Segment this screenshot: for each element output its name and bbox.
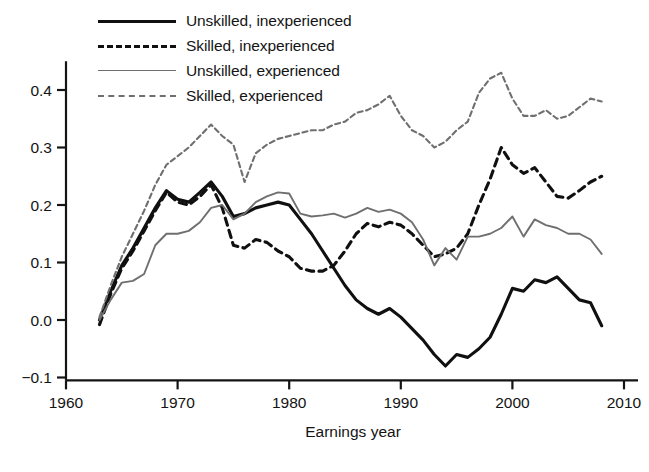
data-series: [99, 73, 601, 366]
series-line-skilled-inexperienced: [99, 148, 601, 325]
x-tick-label: 1960: [49, 394, 84, 411]
y-tick-label: 0.4: [30, 82, 52, 99]
earnings-year-chart: Unskilled, inexperienced Skilled, inexpe…: [0, 0, 649, 472]
series-line-unskilled-experienced: [99, 192, 601, 320]
axis-labels: −0.10.00.10.20.30.4196019701980199020002…: [21, 82, 641, 441]
x-tick-label: 1980: [272, 394, 307, 411]
x-tick-label: 2000: [495, 394, 530, 411]
y-tick-label: −0.1: [21, 369, 52, 386]
x-tick-label: 1990: [384, 394, 419, 411]
y-tick-label: 0.3: [30, 139, 52, 156]
y-tick-label: 0.2: [30, 197, 52, 214]
x-axis-title: Earnings year: [305, 423, 401, 440]
series-line-skilled-experienced: [99, 73, 601, 317]
series-line-unskilled-inexperienced: [99, 182, 601, 366]
plot-area: −0.10.00.10.20.30.4196019701980199020002…: [0, 0, 649, 472]
x-tick-label: 2010: [607, 394, 642, 411]
x-tick-label: 1970: [160, 394, 195, 411]
y-tick-label: 0.0: [30, 312, 52, 329]
y-tick-label: 0.1: [30, 254, 52, 271]
